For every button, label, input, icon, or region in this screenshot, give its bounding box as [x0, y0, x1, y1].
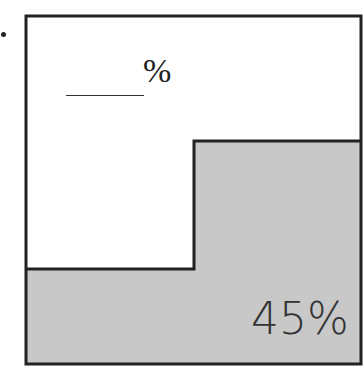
- shaded-percent-label: 45%: [251, 293, 349, 344]
- unshaded-percent-suffix: %: [143, 52, 171, 90]
- answer-blank[interactable]: [66, 95, 144, 96]
